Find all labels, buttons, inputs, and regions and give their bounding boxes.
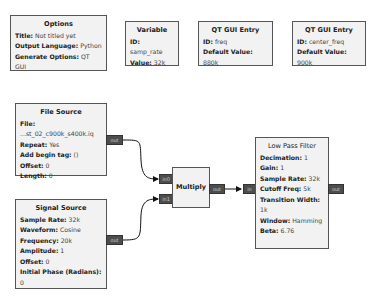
multiply-in0-port[interactable]: in0 [159,174,173,184]
param-sample-rate: Sample Rate: 32k [260,174,324,185]
param-waveform: Waveform: Cosine [20,225,102,236]
block-title: Signal Source [20,203,102,214]
block-title: QT GUI Entry [297,25,361,36]
lpf-out-port[interactable]: out [328,184,344,194]
block-title: Multiply [176,182,206,193]
param-transition-width: Transition Width: 1k [260,195,324,216]
param-default-value: Default Value: 900k [297,47,361,68]
param-output-language: Output Language: Python [15,41,102,52]
block-title: Options [15,19,102,30]
param-amplitude: Amplitude: 1 [20,246,102,257]
wire-filesource-to-multiply-in0 [123,140,158,179]
signal-source-out-port[interactable]: out [106,235,123,245]
param-initial-phase: Initial Phase (Radians): 0 [20,267,102,288]
param-title: Title: Not titled yet [15,31,102,42]
block-title: QT GUI Entry [203,25,268,36]
param-id: ID: center_freq [297,37,361,48]
variable-block[interactable]: Variable ID: samp_rate Value: 32k [125,21,179,66]
param-beta: Beta: 6.76 [260,226,324,237]
param-length: Length: 0 [20,171,102,182]
block-title: Variable [130,25,174,36]
param-repeat: Repeat: Yes [20,140,102,151]
param-offset: Offset: 0 [20,257,102,268]
low-pass-filter-block[interactable]: Low Pass Filter Decimation: 1 Gain: 1 Sa… [255,137,329,249]
multiply-out-port[interactable]: out [209,184,225,194]
param-id: ID: samp_rate [130,37,174,58]
wire-signalsource-to-multiply-in1 [123,199,158,240]
param-default-value: Default Value: 880k [203,47,268,68]
param-sample-rate: Sample Rate: 32k [20,215,102,226]
param-value: Value: 32k [130,58,174,69]
block-title: File Source [20,107,102,118]
signal-source-block[interactable]: Signal Source Sample Rate: 32k Waveform:… [15,199,107,289]
qt-gui-entry-freq-block[interactable]: QT GUI Entry ID: freq Default Value: 880… [198,21,273,66]
param-decimation: Decimation: 1 [260,153,324,164]
qt-gui-entry-center-freq-block[interactable]: QT GUI Entry ID: center_freq Default Val… [292,21,366,66]
options-block[interactable]: Options Title: Not titled yet Output Lan… [10,15,107,71]
param-frequency: Frequency: 20k [20,236,102,247]
param-offset: Offset: 0 [20,161,102,172]
file-source-block[interactable]: File Source File: ...st_02_c900k_s400k.i… [15,103,107,176]
param-window: Window: Hamming [260,216,324,227]
file-source-out-port[interactable]: out [106,135,123,145]
param-generate-options: Generate Options: QT GUI [15,52,102,73]
multiply-in1-port[interactable]: in1 [159,194,173,204]
multiply-block[interactable]: Multiply [172,167,210,208]
param-cutoff-freq: Cutoff Freq: 5k [260,184,324,195]
block-title: Low Pass Filter [260,141,324,152]
param-file: File: ...st_02_c900k_s400k.iq [20,119,102,140]
param-id: ID: freq [203,37,268,48]
param-gain: Gain: 1 [260,163,324,174]
param-add-begin-tag: Add begin tag: () [20,150,102,161]
